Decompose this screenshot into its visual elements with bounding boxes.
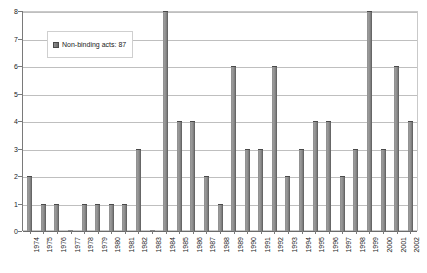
bar-1995[interactable]: [313, 11, 318, 231]
bar-fill: [218, 204, 223, 232]
bar-1987[interactable]: [204, 11, 209, 231]
y-tick-mark: [18, 204, 22, 205]
bar-2000[interactable]: [381, 11, 386, 231]
bar-fill: [82, 204, 87, 232]
bar-1984[interactable]: [163, 11, 168, 231]
bar-1999[interactable]: [367, 11, 372, 231]
x-tick-label: 1982: [141, 237, 148, 253]
x-tick-label: 1996: [332, 237, 339, 253]
bar-1991[interactable]: [258, 11, 263, 231]
bar-2001[interactable]: [394, 11, 399, 231]
bar-1983[interactable]: [150, 11, 155, 231]
bar-fill: [122, 204, 127, 232]
x-tick-label: 1999: [372, 237, 379, 253]
y-tick-mark: [18, 231, 22, 232]
bar-fill: [54, 204, 59, 232]
x-tick-label: 1994: [305, 237, 312, 253]
y-tick-mark: [18, 11, 22, 12]
bar-fill: [408, 121, 413, 231]
x-tick-mark: [302, 231, 303, 234]
bar-1997[interactable]: [340, 11, 345, 231]
bar-fill: [340, 176, 345, 231]
legend-label: Non-binding acts: 87: [62, 41, 126, 49]
bar-chart: 012345678 197419751976197719781979198019…: [0, 0, 427, 273]
x-tick-mark: [193, 231, 194, 234]
bar-1986[interactable]: [190, 11, 195, 231]
y-tick-label: 0: [0, 228, 18, 235]
bar-fill: [258, 149, 263, 232]
x-tick-mark: [261, 231, 262, 234]
x-tick-label: 2000: [386, 237, 393, 253]
x-tick-label: 1985: [182, 237, 189, 253]
bar-fill: [326, 121, 331, 231]
bar-1982[interactable]: [136, 11, 141, 231]
x-tick-mark: [274, 231, 275, 234]
bar-fill: [190, 121, 195, 231]
bar-fill: [177, 121, 182, 231]
bar-fill: [272, 66, 277, 231]
bar-1993[interactable]: [285, 11, 290, 231]
x-tick-label: 1988: [223, 237, 230, 253]
x-tick-mark: [315, 231, 316, 234]
x-tick-mark: [356, 231, 357, 234]
bar-1988[interactable]: [218, 11, 223, 231]
bar-fill: [245, 149, 250, 232]
x-tick-label: 1986: [196, 237, 203, 253]
y-tick-label: 8: [0, 8, 18, 15]
x-tick-label: 1984: [169, 237, 176, 253]
y-tick-label: 5: [0, 90, 18, 97]
bar-fill: [299, 149, 304, 232]
y-tick-mark: [18, 94, 22, 95]
x-tick-mark: [43, 231, 44, 234]
x-tick-mark: [57, 231, 58, 234]
x-tick-mark: [152, 231, 153, 234]
bar-fill: [367, 11, 372, 231]
bar-fill: [381, 149, 386, 232]
bar-fill: [109, 204, 114, 232]
bar-1990[interactable]: [245, 11, 250, 231]
y-tick-mark: [18, 66, 22, 67]
x-tick-label: 2001: [400, 237, 407, 253]
bar-fill: [394, 66, 399, 231]
bar-1992[interactable]: [272, 11, 277, 231]
bar-fill: [285, 176, 290, 231]
bar-fill: [136, 149, 141, 232]
y-tick-label: 1: [0, 200, 18, 207]
x-tick-label: 1975: [46, 237, 53, 253]
x-tick-mark: [138, 231, 139, 234]
bar-2002[interactable]: [408, 11, 413, 231]
bar-1994[interactable]: [299, 11, 304, 231]
x-tick-label: 1978: [87, 237, 94, 253]
bar-1975[interactable]: [41, 11, 46, 231]
x-tick-label: 1974: [33, 237, 40, 253]
y-tick-label: 6: [0, 63, 18, 70]
x-tick-mark: [125, 231, 126, 234]
x-tick-label: 1987: [209, 237, 216, 253]
x-tick-mark: [206, 231, 207, 234]
bar-fill: [353, 149, 358, 232]
x-tick-label: 1995: [318, 237, 325, 253]
bar-1989[interactable]: [231, 11, 236, 231]
y-tick-label: 3: [0, 145, 18, 152]
bar-1985[interactable]: [177, 11, 182, 231]
x-tick-label: 1998: [359, 237, 366, 253]
x-tick-mark: [397, 231, 398, 234]
x-tick-label: 1993: [291, 237, 298, 253]
bar-1996[interactable]: [326, 11, 331, 231]
x-tick-label: 1992: [277, 237, 284, 253]
y-tick-label: 7: [0, 35, 18, 42]
x-tick-mark: [369, 231, 370, 234]
x-tick-mark: [383, 231, 384, 234]
x-tick-mark: [179, 231, 180, 234]
x-tick-label: 1989: [237, 237, 244, 253]
x-tick-mark: [288, 231, 289, 234]
x-tick-mark: [329, 231, 330, 234]
bar-1998[interactable]: [353, 11, 358, 231]
x-tick-label: 1997: [345, 237, 352, 253]
x-tick-label: 2002: [413, 237, 420, 253]
bar-1974[interactable]: [27, 11, 32, 231]
bar-fill: [231, 66, 236, 231]
x-tick-mark: [220, 231, 221, 234]
x-tick-label: 1979: [101, 237, 108, 253]
x-tick-mark: [247, 231, 248, 234]
